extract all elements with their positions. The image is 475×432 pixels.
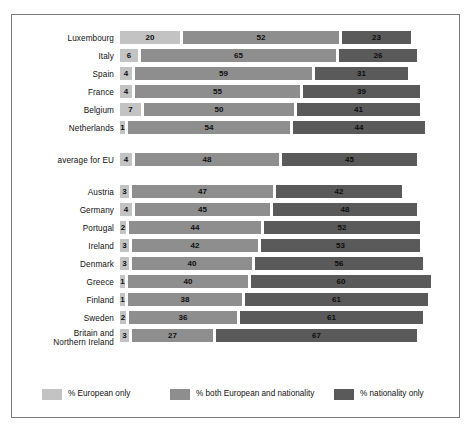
row-label: Finland (12, 296, 114, 305)
group-spacer (12, 169, 459, 183)
bar-segment-2: 40 (128, 275, 248, 288)
bar-segment-1: 4 (120, 85, 132, 98)
legend-swatch-icon (334, 389, 354, 400)
bar-segment-value: 4 (120, 203, 132, 216)
row-label: Luxembourg (12, 34, 114, 43)
bar-row: Belgium75041 (12, 101, 459, 119)
row-label: Denmark (12, 260, 114, 269)
bar-segment-value: 59 (135, 67, 312, 80)
row-label: average for EU (12, 156, 114, 165)
bar-segment-value: 48 (273, 203, 417, 216)
bar-segment-value: 39 (303, 85, 420, 98)
bar-segment-3: 67 (216, 329, 417, 342)
bar-segment-3: 44 (293, 121, 425, 134)
bar-segment-3: 26 (339, 49, 417, 62)
stacked-bar: 15444 (120, 121, 455, 134)
bar-row: Ireland34253 (12, 237, 459, 255)
bar-segment-1: 1 (120, 293, 125, 306)
bar-row: Portugal24452 (12, 219, 459, 237)
bar-segment-1: 3 (120, 185, 129, 198)
bar-segment-3: 53 (261, 239, 420, 252)
bar-rows-container: Luxembourg205223Italy66526Spain45931Fran… (12, 29, 459, 349)
bar-segment-value: 40 (132, 257, 252, 270)
bar-row: Greece14060 (12, 273, 459, 291)
bar-segment-3: 39 (303, 85, 420, 98)
bar-segment-2: 59 (135, 67, 312, 80)
bar-segment-value: 48 (135, 153, 279, 166)
bar-segment-value: 2 (120, 221, 126, 234)
bar-segment-value: 38 (128, 293, 242, 306)
bar-segment-2: 55 (135, 85, 300, 98)
legend-label: % European only (68, 389, 130, 399)
bar-segment-2: 36 (129, 311, 237, 324)
row-label: Portugal (12, 224, 114, 233)
bar-row: Luxembourg205223 (12, 29, 459, 47)
bar-segment-2: 38 (128, 293, 242, 306)
bar-segment-value: 47 (132, 185, 273, 198)
bar-segment-value: 60 (251, 275, 431, 288)
row-label: Britain and Northern Ireland (12, 329, 114, 347)
bar-segment-1: 3 (120, 329, 129, 342)
stacked-bar: 75041 (120, 103, 455, 116)
stacked-bar: 34742 (120, 185, 455, 198)
bar-row: Spain45931 (12, 65, 459, 83)
row-label: Ireland (12, 242, 114, 251)
bar-segment-2: 65 (141, 49, 336, 62)
stacked-bar: 34253 (120, 239, 455, 252)
group-spacer (12, 137, 459, 151)
bar-segment-value: 40 (128, 275, 248, 288)
bar-segment-value: 42 (276, 185, 402, 198)
row-label: Netherlands (12, 124, 114, 133)
legend-label: % both European and nationality (196, 389, 314, 399)
bar-row: Austria34742 (12, 183, 459, 201)
row-label: France (12, 88, 114, 97)
chart-frame: Luxembourg205223Italy66526Spain45931Fran… (11, 14, 460, 418)
bar-segment-2: 42 (132, 239, 258, 252)
bar-row: Italy66526 (12, 47, 459, 65)
bar-row: Germany44548 (12, 201, 459, 219)
bar-segment-value: 3 (120, 329, 129, 342)
bar-row: France45539 (12, 83, 459, 101)
row-label: Belgium (12, 106, 114, 115)
legend-item[interactable]: % both European and nationality (170, 387, 314, 401)
row-label: Austria (12, 188, 114, 197)
bar-segment-value: 7 (120, 103, 141, 116)
bar-segment-1: 3 (120, 239, 129, 252)
stacked-bar: 24452 (120, 221, 455, 234)
bar-segment-1: 4 (120, 67, 132, 80)
bar-segment-1: 1 (120, 121, 125, 134)
stacked-bar: 13861 (120, 293, 455, 306)
bar-segment-1: 3 (120, 257, 129, 270)
row-label: Sweden (12, 314, 114, 323)
bar-segment-3: 52 (264, 221, 420, 234)
bar-segment-1: 20 (120, 31, 180, 44)
legend-item[interactable]: % European only (42, 387, 130, 401)
row-label: Italy (12, 52, 114, 61)
stacked-bar: 45931 (120, 67, 455, 80)
bar-segment-1: 6 (120, 49, 138, 62)
bar-segment-3: 61 (240, 311, 423, 324)
bar-segment-2: 40 (132, 257, 252, 270)
bar-segment-value: 26 (339, 49, 417, 62)
bar-segment-value: 55 (135, 85, 300, 98)
bar-segment-2: 50 (144, 103, 294, 116)
bar-segment-2: 48 (135, 153, 279, 166)
legend-swatch-icon (170, 389, 190, 400)
bar-segment-1: 1 (120, 275, 125, 288)
bar-segment-1: 2 (120, 221, 126, 234)
bar-row: Finland13861 (12, 291, 459, 309)
legend-item[interactable]: % nationality only (334, 387, 424, 401)
bar-row: Denmark34056 (12, 255, 459, 273)
bar-segment-1: 7 (120, 103, 141, 116)
bar-segment-3: 31 (315, 67, 408, 80)
bar-segment-value: 3 (120, 257, 129, 270)
bar-segment-value: 3 (120, 239, 129, 252)
bar-segment-value: 27 (132, 329, 213, 342)
bar-segment-3: 48 (273, 203, 417, 216)
stacked-bar: 32767 (120, 329, 455, 342)
stacked-bar: 205223 (120, 31, 455, 44)
bar-segment-value: 1 (120, 275, 125, 288)
bar-segment-value: 65 (141, 49, 336, 62)
bar-segment-1: 4 (120, 153, 132, 166)
bar-segment-3: 42 (276, 185, 402, 198)
